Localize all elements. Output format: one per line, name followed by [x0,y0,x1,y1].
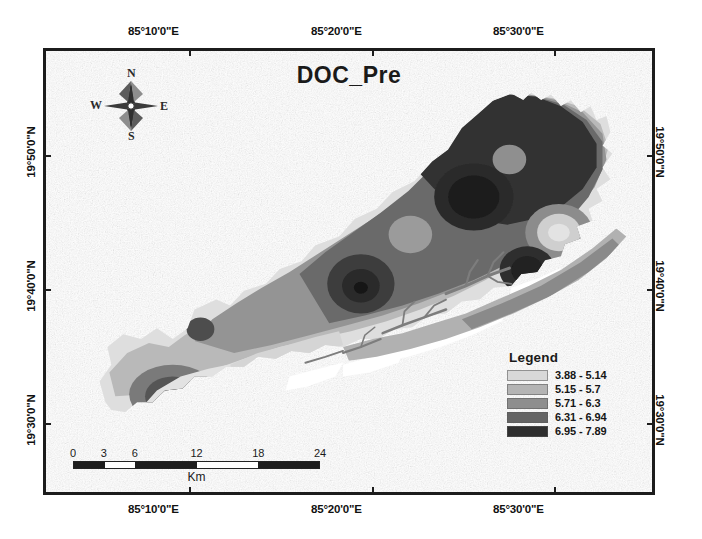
legend-label-5: 6.95 - 7.89 [555,425,607,437]
compass-rose: N S W E [91,69,171,149]
legend-item: 5.15 - 5.7 [507,383,607,395]
legend-label-2: 5.15 - 5.7 [555,383,600,395]
axis-label-top-3: 85°30'0"E [493,25,544,37]
axis-label-bottom-3: 85°30'0"E [493,503,544,515]
tick-top-1 [189,50,191,56]
scale-segment-4 [197,462,258,468]
tick-left-2 [45,289,51,291]
map-frame: DOC_Pre N S W E Legend [43,48,655,495]
compass-label-north: N [127,66,136,81]
legend-swatch-2 [507,384,548,395]
legend: Legend 3.88 - 5.14 5.15 - 5.7 5.71 - 6.3… [507,350,607,439]
axis-label-bottom-1: 85°10'0"E [128,503,179,515]
scale-tick-24: 24 [314,447,326,459]
scale-bar: 0 3 6 12 18 24 Km [73,447,320,484]
axis-label-left-2: 19°40'0"N [25,246,37,326]
scale-segment-1 [74,462,105,468]
scale-tick-3: 3 [101,447,107,459]
scale-segment-2 [105,462,136,468]
legend-swatch-5 [507,426,548,437]
legend-label-4: 6.31 - 6.94 [555,411,607,423]
axis-label-top-2: 85°20'0"E [311,25,362,37]
legend-swatch-4 [507,412,548,423]
tick-top-2 [372,50,374,56]
axis-label-right-2: 19°40'0"N [654,246,666,326]
legend-item: 3.88 - 5.14 [507,369,607,381]
scale-bar-unit: Km [73,470,320,484]
axis-label-left-1: 19°50'0"N [25,112,37,192]
tick-right-1 [647,155,653,157]
legend-item: 5.71 - 6.3 [507,397,607,409]
axis-label-right-1: 19°50'0"N [654,112,666,192]
axis-label-right-3: 19°30'0"N [654,380,666,460]
tick-bottom-1 [189,487,191,493]
axis-label-top-1: 85°10'0"E [128,25,179,37]
scale-bar-graphic [73,461,320,469]
scale-tick-6: 6 [132,447,138,459]
legend-label-3: 5.71 - 6.3 [555,397,600,409]
tick-left-1 [45,155,51,157]
tick-bottom-3 [554,487,556,493]
tick-left-3 [45,423,51,425]
compass-label-west: W [90,98,102,113]
tick-right-3 [647,423,653,425]
scale-tick-12: 12 [190,447,202,459]
tick-bottom-2 [372,487,374,493]
scale-tick-0: 0 [70,447,76,459]
scale-segment-5 [258,462,319,468]
scale-tick-18: 18 [252,447,264,459]
tick-top-3 [554,50,556,56]
scale-segment-3 [135,462,196,468]
tick-right-2 [647,289,653,291]
compass-label-east: E [160,99,168,114]
compass-label-south: S [128,129,135,144]
axis-label-left-3: 19°30'0"N [25,380,37,460]
legend-item: 6.95 - 7.89 [507,425,607,437]
legend-title: Legend [509,350,607,365]
legend-label-1: 3.88 - 5.14 [555,369,607,381]
axis-label-bottom-2: 85°20'0"E [311,503,362,515]
legend-swatch-1 [507,370,548,381]
legend-swatch-3 [507,398,548,409]
scale-bar-ticks: 0 3 6 12 18 24 [73,447,320,461]
legend-item: 6.31 - 6.94 [507,411,607,423]
